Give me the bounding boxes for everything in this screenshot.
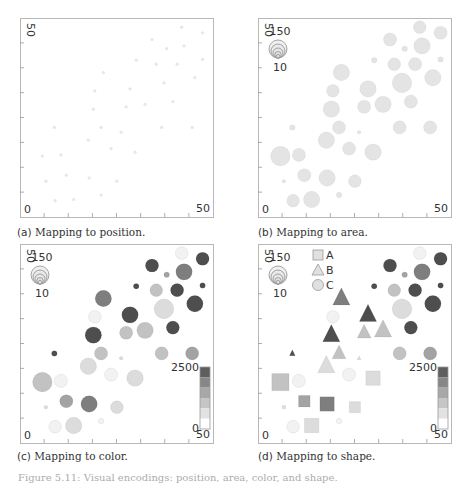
data-circle: [371, 283, 377, 289]
x-axis-min-label: 0: [262, 429, 269, 442]
data-point: [102, 71, 105, 74]
data-point: [72, 198, 75, 201]
data-circle: [65, 417, 81, 433]
data-square: [282, 406, 285, 409]
color-legend-max-label: 2500: [409, 361, 437, 374]
data-circle: [383, 33, 396, 46]
data-point: [44, 180, 47, 183]
data-circle: [402, 46, 408, 52]
data-point: [53, 126, 56, 129]
shape-legend-label: B: [326, 264, 334, 277]
data-circle: [414, 264, 430, 280]
data-circle: [438, 57, 444, 63]
data-circle: [44, 405, 48, 409]
x-axis-max-label: 50: [196, 202, 210, 215]
data-point: [176, 63, 179, 66]
data-circle: [323, 101, 339, 117]
caption-text: Mapping to area.: [276, 226, 368, 238]
data-circle: [33, 372, 53, 392]
data-square: [366, 371, 380, 385]
color-legend-step: [200, 388, 210, 398]
color-legend-step: [438, 408, 448, 418]
data-circle: [392, 73, 412, 93]
data-circle: [187, 295, 203, 311]
data-circle: [98, 418, 104, 424]
data-circle: [80, 358, 96, 374]
plot-area: 0505015010: [258, 18, 452, 218]
figure-caption-partial: Figure 5.11: Visual encodings: position,…: [18, 472, 338, 483]
caption-text: Mapping to color.: [34, 450, 128, 462]
data-circle: [413, 247, 426, 260]
color-legend-step: [438, 377, 448, 387]
data-circle: [303, 191, 319, 207]
data-circle: [349, 175, 362, 188]
data-circle: [409, 284, 422, 297]
data-point: [201, 58, 204, 61]
data-circle: [166, 321, 179, 334]
data-point: [125, 105, 128, 108]
color-legend-step: [200, 408, 210, 418]
data-circle: [89, 310, 102, 323]
legend-circle-icon: [313, 280, 324, 291]
data-square: [320, 397, 334, 411]
data-point: [109, 147, 112, 150]
data-point: [41, 155, 44, 158]
data-circle: [127, 370, 143, 386]
data-circle: [388, 58, 401, 71]
data-point: [160, 126, 163, 129]
data-circle: [95, 290, 111, 306]
data-point: [155, 63, 158, 66]
data-square: [299, 395, 311, 407]
plot-frame: [21, 19, 214, 218]
data-circle: [332, 121, 345, 134]
caption-tag: (d): [258, 450, 273, 462]
data-circle: [85, 327, 101, 343]
data-circle: [434, 252, 447, 265]
data-circle: [175, 247, 188, 260]
data-circle: [336, 192, 342, 198]
data-circle: [290, 125, 296, 131]
y-axis-max-label: 50: [24, 23, 37, 37]
caption-text: Mapping to position.: [35, 226, 145, 238]
size-legend-max-label: 150: [270, 25, 291, 38]
data-circle: [145, 259, 158, 272]
data-point: [143, 103, 146, 106]
data-circle: [404, 321, 417, 334]
panel-position: 05050: [20, 18, 214, 218]
data-point: [92, 108, 95, 111]
data-circle: [414, 38, 430, 54]
data-point: [133, 151, 136, 154]
panel-area: 0505015010: [258, 18, 452, 218]
data-point: [201, 31, 204, 34]
data-point: [191, 126, 194, 129]
color-legend-min-label: 0: [192, 422, 199, 435]
shape-legend-label: C: [326, 279, 334, 292]
x-axis-min-label: 0: [24, 203, 31, 216]
data-circle: [375, 96, 391, 112]
panel-shape: 050501501025000ABC: [258, 244, 452, 444]
data-point: [162, 81, 165, 84]
data-circle: [318, 132, 334, 148]
data-circle: [54, 374, 67, 387]
color-legend-step: [200, 367, 210, 377]
data-circle: [155, 347, 168, 360]
size-legend-min-label: 10: [273, 287, 287, 300]
size-legend-circle: [38, 280, 42, 284]
data-point: [59, 153, 62, 156]
data-circle: [393, 347, 406, 360]
data-circle: [282, 179, 286, 183]
data-circle: [333, 64, 349, 80]
data-circle: [360, 81, 376, 97]
x-axis-min-label: 0: [24, 429, 31, 442]
data-circle: [409, 58, 422, 71]
data-circle: [413, 21, 426, 34]
data-circle: [292, 374, 305, 387]
data-circle: [434, 26, 447, 39]
plot-color: 050501501025000: [20, 244, 214, 444]
data-point: [135, 59, 138, 62]
x-axis-max-label: 50: [434, 202, 448, 215]
data-circle: [425, 69, 441, 85]
size-legend-circle: [276, 54, 280, 58]
data-point: [120, 131, 123, 134]
data-point: [150, 38, 153, 41]
